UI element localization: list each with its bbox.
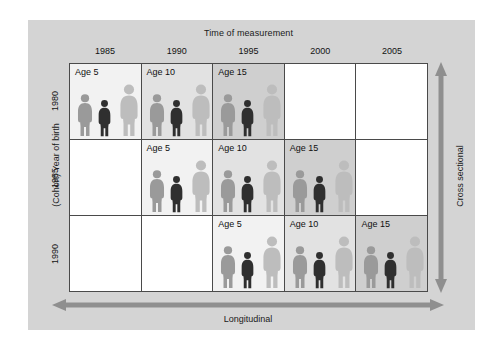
person-figure-left (291, 245, 309, 289)
person-figure-right (261, 235, 283, 289)
cell-person-group (142, 151, 213, 213)
cell-age-label: Age 15 (361, 219, 390, 229)
bottom-axis-title: Longitudinal (52, 314, 444, 324)
person-figure-center (240, 175, 255, 213)
grid-cell-empty-1985-2005 (356, 140, 428, 216)
longitudinal-arrow (52, 298, 444, 312)
person-figure-left (362, 245, 380, 289)
grid-cell-1985-1990: Age 5 (142, 140, 214, 216)
column-header-2000: 2000 (284, 44, 356, 58)
person-figure-left (219, 245, 237, 289)
grid-cell-empty-1990-1985 (70, 216, 142, 292)
column-header-2005: 2005 (356, 44, 428, 58)
person-figure-right (333, 235, 355, 289)
cell-age-label: Age 15 (290, 143, 319, 153)
person-figure-right (333, 159, 355, 213)
row-header-1990: 1990 (49, 216, 61, 292)
row-header-1985: 1985 (49, 140, 61, 216)
cell-age-label: Age 5 (218, 219, 242, 229)
column-header-1985: 1985 (69, 44, 141, 58)
person-figure-right (118, 83, 140, 137)
grid-cell-1985-1995: Age 10 (213, 140, 285, 216)
right-axis-title: Cross sectional (455, 106, 465, 246)
grid-cell-1980-1990: Age 10 (142, 64, 214, 140)
cell-age-label: Age 5 (147, 143, 171, 153)
person-figure-left (76, 93, 94, 137)
person-figure-right (261, 83, 283, 137)
person-figure-center (169, 99, 184, 137)
person-figure-center (169, 175, 184, 213)
person-figure-left (219, 169, 237, 213)
grid-cell-empty-1980-2000 (285, 64, 357, 140)
column-header-1990: 1990 (141, 44, 213, 58)
person-figure-right (190, 83, 212, 137)
person-figure-left (148, 93, 166, 137)
column-header-1995: 1995 (213, 44, 285, 58)
grid-cell-1980-1995: Age 15 (213, 64, 285, 140)
cell-person-group (213, 151, 284, 213)
grid-cell-empty-1990-1990 (142, 216, 214, 292)
grid-cell-empty-1980-2005 (356, 64, 428, 140)
cell-person-group (356, 227, 427, 289)
cohort-grid: Age 5Age 10Age 15Age 5Age 10Age 15Age 5A… (69, 63, 428, 292)
grid-cell-1990-2000: Age 10 (285, 216, 357, 292)
row-header-1980: 1980 (49, 63, 61, 139)
person-figure-left (291, 169, 309, 213)
grid-cell-1980-1985: Age 5 (70, 64, 142, 140)
cell-age-label: Age 10 (218, 143, 247, 153)
grid-cell-empty-1985-1985 (70, 140, 142, 216)
person-figure-right (404, 235, 426, 289)
top-axis-title: Time of measurement (69, 28, 428, 38)
person-figure-left (148, 169, 166, 213)
cell-age-label: Age 10 (290, 219, 319, 229)
cell-person-group (285, 151, 356, 213)
cross-sectional-arrow (434, 62, 448, 293)
cell-person-group (142, 75, 213, 137)
grid-cell-1990-1995: Age 5 (213, 216, 285, 292)
person-figure-center (240, 99, 255, 137)
cell-person-group (285, 227, 356, 289)
person-figure-center (312, 175, 327, 213)
cell-person-group (70, 75, 141, 137)
person-figure-right (261, 159, 283, 213)
person-figure-center (97, 99, 112, 137)
column-header-row: 1985 1990 1995 2000 2005 (69, 44, 428, 58)
grid-cell-1985-2000: Age 15 (285, 140, 357, 216)
person-figure-center (383, 251, 398, 289)
cell-age-label: Age 10 (147, 67, 176, 77)
grid-cell-1990-2005: Age 15 (356, 216, 428, 292)
person-figure-right (190, 159, 212, 213)
cell-age-label: Age 5 (75, 67, 99, 77)
person-figure-left (219, 93, 237, 137)
cell-person-group (213, 75, 284, 137)
person-figure-center (240, 251, 255, 289)
cell-person-group (213, 227, 284, 289)
cell-age-label: Age 15 (218, 67, 247, 77)
person-figure-center (312, 251, 327, 289)
cohort-sequential-figure: Time of measurement 1985 1990 1995 2000 … (0, 0, 498, 353)
